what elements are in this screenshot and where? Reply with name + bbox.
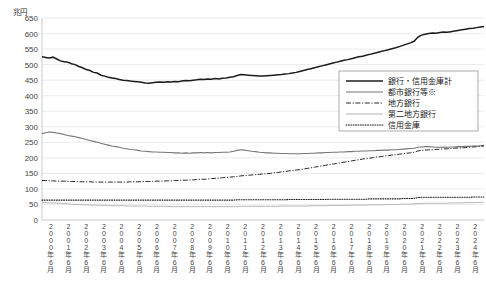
svg-text:2: 2 — [456, 223, 460, 230]
svg-text:月: 月 — [436, 266, 443, 274]
x-axis-tick-label: 2012年6月 — [260, 223, 267, 274]
svg-text:1: 1 — [349, 237, 353, 244]
svg-text:6: 6 — [349, 259, 353, 266]
series-line — [42, 197, 484, 200]
svg-text:1: 1 — [314, 237, 318, 244]
svg-text:7: 7 — [349, 244, 353, 251]
svg-text:0: 0 — [49, 244, 53, 251]
svg-text:0: 0 — [190, 230, 194, 237]
svg-text:7: 7 — [173, 244, 177, 251]
svg-text:1: 1 — [420, 244, 424, 251]
legend-label-1: 銀行・信用金庫計 — [388, 76, 452, 86]
svg-text:1: 1 — [226, 237, 230, 244]
svg-text:月: 月 — [100, 266, 107, 274]
x-axis-tick-label: 2002年6月 — [83, 223, 90, 274]
svg-text:2: 2 — [243, 223, 247, 230]
svg-text:2: 2 — [208, 223, 212, 230]
svg-text:6: 6 — [208, 259, 212, 266]
svg-text:6: 6 — [473, 259, 477, 266]
svg-text:1: 1 — [261, 237, 265, 244]
svg-text:2: 2 — [279, 223, 283, 230]
svg-text:0: 0 — [349, 230, 353, 237]
svg-text:4: 4 — [296, 244, 300, 251]
svg-text:2: 2 — [438, 223, 442, 230]
svg-text:2: 2 — [314, 223, 318, 230]
svg-text:1: 1 — [67, 244, 71, 251]
svg-text:6: 6 — [261, 259, 265, 266]
x-axis-tick-label: 2003年6月 — [100, 223, 107, 274]
svg-text:6: 6 — [332, 259, 336, 266]
chart-container: 兆円 0501001502002503003504004505005506006… — [0, 0, 486, 292]
svg-text:0: 0 — [84, 237, 88, 244]
svg-text:2: 2 — [456, 237, 460, 244]
svg-text:0: 0 — [173, 230, 177, 237]
svg-text:0: 0 — [155, 230, 159, 237]
svg-text:月: 月 — [295, 266, 302, 274]
svg-text:1: 1 — [279, 237, 283, 244]
svg-text:8: 8 — [367, 244, 371, 251]
svg-text:月: 月 — [313, 266, 320, 274]
x-axis-tick-label: 2006年6月 — [153, 223, 160, 274]
svg-text:2: 2 — [102, 223, 106, 230]
svg-text:月: 月 — [260, 266, 267, 274]
svg-text:0: 0 — [314, 230, 318, 237]
svg-text:月: 月 — [153, 266, 160, 274]
series-line — [42, 146, 484, 182]
svg-text:6: 6 — [49, 259, 53, 266]
svg-text:6: 6 — [226, 259, 230, 266]
svg-text:6: 6 — [314, 259, 318, 266]
svg-text:9: 9 — [208, 244, 212, 251]
svg-text:0: 0 — [402, 230, 406, 237]
svg-text:2: 2 — [332, 223, 336, 230]
svg-text:2: 2 — [190, 223, 194, 230]
svg-text:0: 0 — [456, 230, 460, 237]
x-axis-tick-label: 2013年6月 — [277, 223, 284, 274]
svg-text:0: 0 — [49, 237, 53, 244]
svg-text:月: 月 — [472, 266, 479, 274]
svg-text:2: 2 — [49, 223, 53, 230]
svg-text:0: 0 — [120, 237, 124, 244]
svg-text:2: 2 — [420, 223, 424, 230]
svg-text:2: 2 — [349, 223, 353, 230]
svg-text:0: 0 — [137, 230, 141, 237]
svg-text:2: 2 — [84, 223, 88, 230]
svg-text:6: 6 — [173, 259, 177, 266]
svg-text:6: 6 — [102, 259, 106, 266]
legend-label-5: 信用金庫 — [388, 120, 420, 130]
x-axis-tick-label: 2008年6月 — [189, 223, 196, 274]
svg-text:月: 月 — [419, 266, 426, 274]
x-axis-tick-label: 2016年6月 — [330, 223, 337, 274]
svg-text:4: 4 — [120, 244, 124, 251]
y-axis-tick-label: 150 — [25, 169, 39, 178]
svg-text:5: 5 — [314, 244, 318, 251]
svg-text:0: 0 — [261, 230, 265, 237]
svg-text:0: 0 — [473, 230, 477, 237]
y-axis-tick-label: 500 — [25, 61, 39, 70]
svg-text:月: 月 — [277, 266, 284, 274]
svg-text:2: 2 — [120, 223, 124, 230]
svg-text:0: 0 — [208, 230, 212, 237]
svg-text:月: 月 — [401, 266, 408, 274]
svg-text:6: 6 — [367, 259, 371, 266]
svg-text:0: 0 — [243, 230, 247, 237]
svg-text:0: 0 — [67, 237, 71, 244]
x-axis-tick-label: 2001年6月 — [65, 223, 72, 274]
svg-text:月: 月 — [83, 266, 90, 274]
x-axis-tick-labels: 2000年6月2001年6月2002年6月2003年6月2004年6月2005年… — [47, 223, 478, 274]
svg-text:0: 0 — [190, 237, 194, 244]
svg-text:0: 0 — [226, 230, 230, 237]
x-axis-tick-label: 2009年6月 — [206, 223, 213, 274]
svg-text:月: 月 — [366, 266, 373, 274]
svg-text:月: 月 — [224, 266, 231, 274]
svg-text:2: 2 — [84, 244, 88, 251]
legend-label-3: 地方銀行 — [388, 98, 420, 108]
y-axis-tick-label: 300 — [25, 123, 39, 132]
svg-text:月: 月 — [454, 266, 461, 274]
y-axis-tick-label: 450 — [25, 76, 39, 85]
svg-text:1: 1 — [243, 244, 247, 251]
svg-text:8: 8 — [190, 244, 194, 251]
svg-text:0: 0 — [367, 230, 371, 237]
svg-text:2: 2 — [155, 223, 159, 230]
chart-legend: 銀行・信用金庫計都市銀行等※地方銀行第二地方銀行信用金庫 — [339, 71, 478, 131]
x-axis-tick-label: 2000年6月 — [47, 223, 54, 274]
